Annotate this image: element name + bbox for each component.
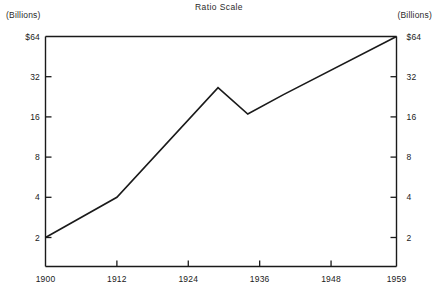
- axes-group: [46, 37, 397, 267]
- ratio-scale-chart: Ratio Scale (Billions) (Billions) 248163…: [0, 0, 438, 304]
- y-axis-tick-label-left: 2: [0, 233, 40, 243]
- x-axis-tick-label: 1959: [387, 274, 407, 284]
- y-axis-tick-label-right: 4: [407, 192, 412, 202]
- x-axis-tick-label: 1900: [36, 274, 56, 284]
- y-axis-tick-label-left: 8: [0, 152, 40, 162]
- y-axis-tick-label-left: 32: [0, 72, 40, 82]
- y-axis-tick-label-left: $64: [0, 32, 40, 42]
- x-axis-tick-label: 1948: [321, 274, 341, 284]
- y-axis-tick-label-left: 16: [0, 112, 40, 122]
- y-axis-tick-label-right: $64: [407, 32, 422, 42]
- y-axis-tick-label-right: 8: [407, 152, 412, 162]
- ticks-group: [46, 77, 397, 267]
- y-axis-tick-label-left: 4: [0, 192, 40, 202]
- y-axis-tick-label-right: 16: [407, 112, 417, 122]
- data-series-line: [46, 37, 397, 238]
- y-axis-tick-label-right: 32: [407, 72, 417, 82]
- x-axis-tick-label: 1924: [178, 274, 198, 284]
- y-axis-tick-label-right: 2: [407, 233, 412, 243]
- x-axis-tick-label: 1936: [250, 274, 270, 284]
- plot-area: [0, 0, 438, 304]
- x-axis-tick-label: 1912: [107, 274, 127, 284]
